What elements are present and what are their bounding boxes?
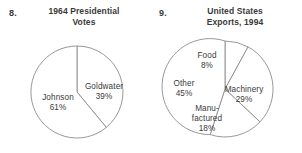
pie-svg-9: Food 8% Machinery 29% Manu- factured 18%… — [151, 0, 302, 153]
slice-label-food: Food — [197, 51, 216, 60]
slice-label-goldwater: Goldwater — [85, 82, 123, 91]
slice-value-goldwater: 39% — [96, 92, 113, 101]
slice-value-food: 8% — [201, 61, 213, 70]
pie-chart-presidential-votes: Goldwater 39% Johnson 61% — [0, 0, 151, 153]
slice-label-machinery: Machinery — [225, 85, 264, 94]
worksheet-page: 8. 1964 Presidential Votes Goldwater 39%… — [0, 0, 302, 153]
pie-svg-8: Goldwater 39% Johnson 61% — [0, 0, 151, 153]
slice-label-johnson: Johnson — [42, 93, 74, 102]
slice-value-machinery: 29% — [236, 95, 253, 104]
slice-value-other: 45% — [176, 89, 193, 98]
slice-label-manufactured-line2: factured — [192, 114, 223, 123]
slice-value-johnson: 61% — [50, 103, 67, 112]
figure-8: 8. 1964 Presidential Votes Goldwater 39%… — [0, 0, 151, 153]
figure-9: 9. United States Exports, 1994 Food 8% M… — [151, 0, 302, 153]
slice-label-other: Other — [174, 79, 195, 88]
pie-chart-us-exports: Food 8% Machinery 29% Manu- factured 18%… — [151, 0, 302, 153]
slice-label-manufactured-line1: Manu- — [195, 104, 219, 113]
slice-value-manufactured: 18% — [199, 124, 216, 133]
